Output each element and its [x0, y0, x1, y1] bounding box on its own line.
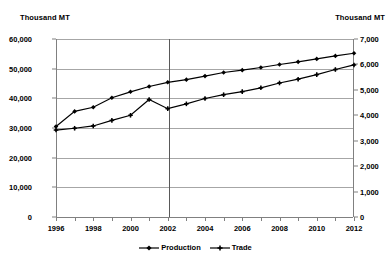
legend-label-trade: Trade [232, 244, 252, 252]
data-point-trade [296, 77, 301, 82]
data-point-production [91, 105, 96, 110]
data-point-trade [221, 92, 226, 97]
data-point-production [240, 68, 245, 73]
legend-label-production: Production [161, 244, 201, 252]
data-point-trade [259, 86, 264, 91]
chart-legend: ProductionTrade [0, 244, 391, 252]
data-point-production [184, 77, 189, 82]
data-point-production [147, 84, 152, 89]
data-point-production [296, 60, 301, 65]
data-point-trade [72, 126, 77, 131]
data-point-production [128, 90, 133, 95]
data-point-production [352, 51, 357, 56]
data-point-production [333, 54, 338, 59]
data-point-production [221, 70, 226, 75]
data-point-production [203, 74, 208, 79]
plus-marker-icon [210, 244, 230, 252]
series-plot-layer [0, 0, 391, 265]
data-point-trade [277, 81, 282, 86]
data-point-trade [240, 89, 245, 94]
data-point-trade [352, 63, 357, 68]
diamond-marker-icon [139, 244, 159, 252]
data-point-trade [184, 102, 189, 107]
data-point-production [314, 57, 319, 62]
legend-item-production[interactable]: Production [139, 244, 201, 252]
data-point-trade [165, 106, 170, 111]
data-point-trade [333, 67, 338, 72]
data-point-trade [314, 72, 319, 77]
data-point-trade [54, 128, 59, 133]
data-point-production [259, 65, 264, 70]
series-line-production [56, 53, 354, 126]
legend-item-trade[interactable]: Trade [210, 244, 252, 252]
data-point-production [165, 80, 170, 85]
data-point-production [110, 95, 115, 100]
data-point-production [277, 62, 282, 67]
data-point-trade [91, 124, 96, 129]
data-point-trade [110, 118, 115, 123]
chart-container: Thousand MT Thousand MT 010,00020,00030,… [0, 0, 391, 265]
data-point-trade [203, 96, 208, 101]
